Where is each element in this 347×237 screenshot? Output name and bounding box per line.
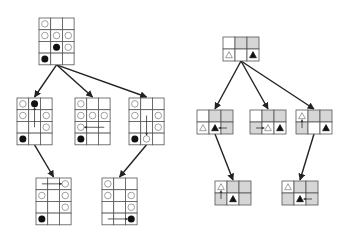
grid-cell (51, 18, 63, 30)
grid-cell (235, 37, 247, 49)
tree-edge (57, 65, 93, 97)
right-tree-node (296, 110, 332, 134)
filled-circle-icon (41, 55, 48, 62)
grid-cell (223, 37, 235, 49)
grid-cell (40, 133, 52, 145)
right-tree (197, 37, 332, 205)
grid-cell (250, 110, 262, 122)
right-tree-node (250, 110, 286, 134)
left-tree (17, 18, 164, 225)
left-tree-node (102, 178, 137, 225)
grid-cell (62, 18, 74, 30)
grid-cell (209, 110, 221, 122)
filled-circle-icon (19, 135, 26, 142)
grid-cell (235, 49, 247, 61)
grid-cell (102, 201, 114, 213)
hollow-circle-icon (43, 112, 50, 119)
left-tree-node (36, 178, 71, 225)
grid-cell (17, 121, 29, 133)
hollow-circle-icon (89, 112, 96, 119)
hollow-circle-icon (78, 112, 85, 119)
grid-cell (221, 110, 233, 122)
hollow-circle-icon (105, 192, 112, 199)
grid-cell (141, 98, 153, 110)
hollow-circle-icon (65, 32, 72, 39)
hollow-circle-icon (62, 181, 69, 188)
grid-cell (227, 181, 239, 193)
left-tree-node (75, 98, 110, 145)
left-tree-node (39, 18, 74, 65)
grid-cell (48, 190, 60, 202)
hollow-circle-icon (53, 32, 60, 39)
grid-cell (125, 178, 137, 190)
hollow-circle-icon (42, 21, 49, 28)
right-tree-node (282, 181, 318, 205)
grid-cell (320, 110, 332, 122)
hollow-circle-icon (20, 112, 27, 119)
hollow-circle-icon (105, 181, 112, 188)
right-tree-node (223, 37, 259, 61)
grid-cell (308, 122, 320, 134)
hollow-circle-icon (132, 112, 139, 119)
grid-cell (306, 181, 318, 193)
grid-cell (48, 201, 60, 213)
hollow-circle-icon (78, 101, 85, 108)
grid-cell (129, 121, 141, 133)
grid-cell (87, 98, 99, 110)
hollow-circle-icon (155, 124, 162, 131)
hollow-circle-icon (155, 112, 162, 119)
tree-edge (215, 134, 233, 180)
filled-circle-icon (128, 215, 135, 222)
tree-edge (241, 61, 268, 109)
tree-edge (35, 65, 57, 97)
tree-edge (215, 61, 241, 109)
grid-cell (247, 37, 259, 49)
grid-cell (98, 98, 110, 110)
grid-cell (98, 133, 110, 145)
hollow-circle-icon (43, 124, 50, 131)
grid-cell (262, 110, 274, 122)
hollow-circle-icon (39, 192, 46, 199)
hollow-circle-icon (62, 192, 69, 199)
grid-cell (62, 53, 74, 65)
grid-cell (59, 213, 71, 225)
right-tree-node (215, 181, 251, 205)
filled-circle-icon (38, 215, 45, 222)
grid-cell (282, 193, 294, 205)
grid-cell (29, 133, 41, 145)
hollow-circle-icon (20, 101, 27, 108)
filled-circle-icon (53, 44, 60, 51)
grid-cell (87, 133, 99, 145)
hollow-circle-icon (65, 44, 72, 51)
hollow-circle-icon (101, 112, 108, 119)
grid-cell (114, 201, 126, 213)
grid-cell (274, 110, 286, 122)
grid-cell (51, 53, 63, 65)
grid-cell (48, 213, 60, 225)
tree-edge (57, 65, 147, 97)
grid-cell (40, 98, 52, 110)
grid-cell (114, 190, 126, 202)
hollow-circle-icon (62, 204, 69, 211)
grid-cell (197, 110, 209, 122)
tree-edge (35, 145, 54, 177)
tree-edge (241, 61, 314, 109)
hollow-circle-icon (143, 136, 150, 143)
tree-edge (120, 145, 147, 177)
filled-circle-icon (131, 135, 138, 142)
filled-circle-icon (77, 135, 84, 142)
hollow-circle-icon (42, 32, 49, 39)
hollow-circle-icon (128, 204, 135, 211)
right-tree-node (197, 110, 233, 134)
left-tree-node (129, 98, 164, 145)
hollow-circle-icon (78, 124, 85, 131)
grid-cell (239, 193, 251, 205)
grid-cell (114, 178, 126, 190)
grid-cell (36, 201, 48, 213)
grid-cell (294, 181, 306, 193)
tree-edge (300, 134, 314, 180)
grid-cell (152, 98, 164, 110)
grid-cell (239, 181, 251, 193)
grid-cell (308, 110, 320, 122)
hollow-circle-icon (132, 101, 139, 108)
